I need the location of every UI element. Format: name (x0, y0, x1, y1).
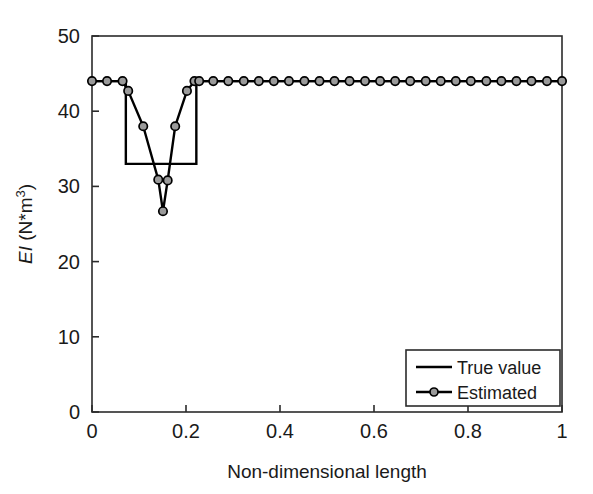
data-point-9 (183, 87, 191, 95)
data-point-11 (195, 77, 203, 85)
data-point-17 (285, 77, 293, 85)
data-point-33 (527, 77, 535, 85)
y-tick-label-1: 10 (58, 326, 80, 348)
data-point-0 (88, 77, 96, 85)
y-axis-title-symbol: EI (15, 245, 36, 264)
x-tick-label-4: 0.8 (454, 420, 482, 442)
y-axis-title-units: (N*m (15, 198, 36, 247)
y-tick-label-4: 40 (58, 100, 80, 122)
x-tick-label-1: 0.2 (172, 420, 200, 442)
data-point-21 (345, 77, 353, 85)
data-point-5 (154, 175, 162, 183)
x-tick-label-3: 0.6 (360, 420, 388, 442)
data-point-32 (512, 77, 520, 85)
data-point-34 (543, 77, 551, 85)
data-point-28 (452, 77, 460, 85)
y-tick-label-5: 50 (58, 25, 80, 47)
data-point-20 (330, 77, 338, 85)
y-axis-title: EI (N*m3) (13, 184, 36, 264)
data-point-26 (422, 77, 430, 85)
x-axis-title: Non-dimensional length (227, 461, 427, 482)
data-point-12 (209, 77, 217, 85)
chart-canvas: 00.20.40.60.81 01020304050 Non-dimension… (0, 0, 593, 494)
legend-label-estimated: Estimated (457, 383, 537, 403)
data-point-16 (270, 77, 278, 85)
data-point-25 (406, 77, 414, 85)
data-point-19 (315, 77, 323, 85)
data-point-30 (482, 77, 490, 85)
legend-label-true-value: True value (457, 358, 541, 378)
data-point-27 (437, 77, 445, 85)
x-tick-label-5: 1 (556, 420, 567, 442)
x-tick-label-2: 0.4 (266, 420, 294, 442)
data-point-1 (103, 77, 111, 85)
data-point-23 (376, 77, 384, 85)
data-point-18 (300, 77, 308, 85)
y-tick-label-2: 20 (58, 251, 80, 273)
data-point-7 (163, 176, 171, 184)
data-point-6 (159, 207, 167, 215)
chart-figure: 00.20.40.60.81 01020304050 Non-dimension… (0, 0, 593, 494)
y-tick-label-3: 30 (58, 175, 80, 197)
data-point-29 (467, 77, 475, 85)
data-point-31 (497, 77, 505, 85)
data-point-14 (240, 77, 248, 85)
x-axis-tick-labels: 00.20.40.60.81 (86, 420, 567, 442)
legend-marker-estimated (430, 388, 438, 396)
data-point-15 (255, 77, 263, 85)
x-tick-label-0: 0 (86, 420, 97, 442)
data-point-4 (139, 122, 147, 130)
y-tick-label-0: 0 (69, 401, 80, 423)
chart-legend: True value Estimated (406, 350, 560, 406)
data-point-24 (391, 77, 399, 85)
data-point-2 (118, 77, 126, 85)
data-point-8 (171, 122, 179, 130)
data-point-22 (361, 77, 369, 85)
data-point-35 (558, 77, 566, 85)
data-point-13 (224, 77, 232, 85)
y-axis-title-exponent: 3 (13, 190, 28, 197)
svg-text:EI (N*m3): EI (N*m3) (13, 184, 36, 264)
y-axis-title-close: ) (15, 184, 36, 190)
data-point-3 (124, 87, 132, 95)
y-axis-tick-labels: 01020304050 (58, 25, 80, 423)
